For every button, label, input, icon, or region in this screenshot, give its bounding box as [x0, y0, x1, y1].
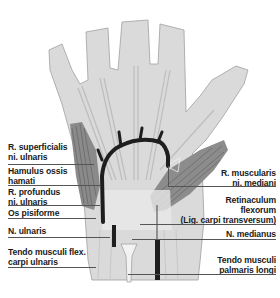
label-line: Hamulus ossis: [8, 166, 67, 176]
leader-r-profundus: [8, 205, 100, 206]
label-r-muscularis-ni-mediani: R. muscularis ni. mediani: [221, 168, 276, 188]
label-line: Tendo musculi flex.: [8, 247, 86, 257]
leader-r-muscularis: [168, 186, 276, 187]
label-line: carpi ulnaris: [8, 257, 86, 267]
ulnar-nerve: [112, 225, 116, 247]
leader-retinaculum: [140, 224, 276, 225]
leader-hamulus: [8, 185, 100, 186]
label-line: R. profundus: [8, 187, 60, 197]
label-line: flexorum: [180, 205, 276, 215]
label-hamulus-ossis-hamati: Hamulus ossis hamati: [8, 166, 67, 186]
label-line: Retinaculum: [180, 195, 276, 205]
label-r-superficialis-ni-ulnaris: R. superficialis ni. ulnaris: [8, 142, 68, 162]
label-line: Tendo musculi: [217, 255, 276, 265]
leader-r-muscularis-vertical: [168, 166, 169, 186]
leader-tendo-fcu: [8, 267, 96, 268]
leader-tendo-pl: [128, 274, 276, 275]
label-line: Os pisiforme: [8, 208, 59, 218]
label-retinaculum-flexorum: Retinaculum flexorum (Lig. carpi transve…: [180, 195, 276, 225]
label-line: N. ulnaris: [8, 226, 46, 236]
label-tendo-musculi-flex-carpi-ulnaris: Tendo musculi flex. carpi ulnaris: [8, 247, 86, 267]
label-n-ulnaris: N. ulnaris: [8, 226, 46, 236]
label-line: R. muscularis: [221, 168, 276, 178]
label-os-pisiforme: Os pisiforme: [8, 208, 59, 218]
label-n-medianus: N. medianus: [226, 229, 276, 239]
label-line: R. superficialis: [8, 142, 68, 152]
leader-os-pisiforme: [8, 218, 96, 219]
leader-r-superficialis: [8, 164, 94, 165]
label-r-profundus-ni-ulnaris: R. profundus ni. ulnaris: [8, 187, 60, 207]
label-line: ni. ulnaris: [8, 152, 68, 162]
label-line: N. medianus: [226, 229, 276, 239]
leader-n-medianus: [132, 239, 276, 240]
leader-n-ulnaris: [8, 237, 110, 238]
label-tendo-musculi-palmaris-longi: Tendo musculi palmaris longi: [217, 255, 276, 275]
